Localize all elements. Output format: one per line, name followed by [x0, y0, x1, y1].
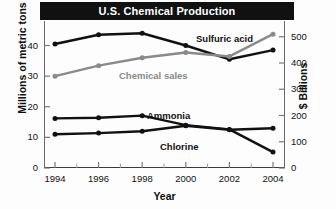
y-tick-label-right: 300 [291, 83, 321, 94]
y-tick-label-left: 30 [8, 70, 38, 81]
x-tick-label: 2004 [253, 173, 293, 184]
x-tick-label: 1994 [35, 173, 75, 184]
series-label-ammonia: Ammonia [147, 110, 190, 121]
chart-figure: U.S. Chemical Production Millions of met… [0, 0, 336, 209]
x-tick-label: 1996 [79, 173, 119, 184]
y-tick-label-right: 0 [291, 162, 321, 173]
x-tick-label: 2000 [166, 173, 206, 184]
x-tick-label: 2002 [209, 173, 249, 184]
y-tick-label-left: 40 [8, 40, 38, 51]
y-tick-label-left: 20 [8, 101, 38, 112]
x-tick-label: 1998 [122, 173, 162, 184]
y-tick-label-right: 200 [291, 110, 321, 121]
y-tick-label-right: 400 [291, 57, 321, 68]
series-lines [53, 31, 276, 155]
series-label-chemical-sales: Chemical sales [119, 70, 188, 81]
series-label-sulfuric-acid: Sulfuric acid [196, 33, 253, 44]
y-tick-label-right: 100 [291, 136, 321, 147]
y-tick-label-left: 10 [8, 131, 38, 142]
y-tick-label-left: 0 [8, 162, 38, 173]
y-tick-label-right: 500 [291, 31, 321, 42]
x-axis-label: Year [44, 190, 285, 202]
series-label-chlorine: Chlorine [160, 141, 199, 152]
